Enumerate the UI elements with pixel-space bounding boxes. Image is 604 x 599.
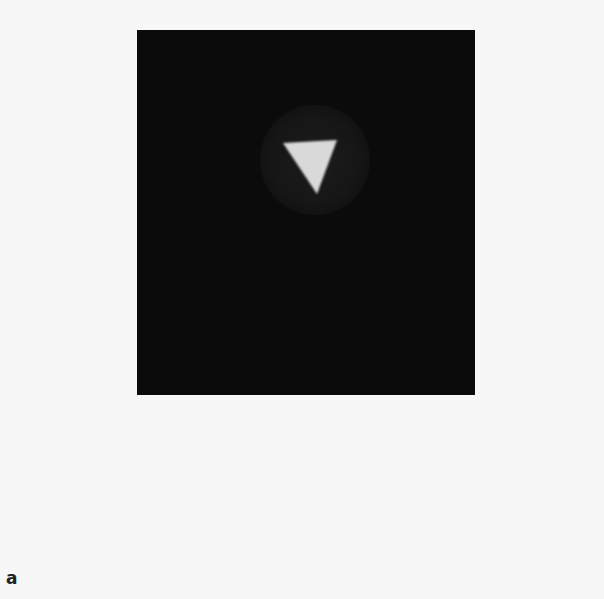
triangle-shape [137, 30, 475, 395]
panel-label: a [6, 568, 17, 588]
triangle-icon [283, 140, 337, 194]
image-panel [137, 30, 475, 395]
